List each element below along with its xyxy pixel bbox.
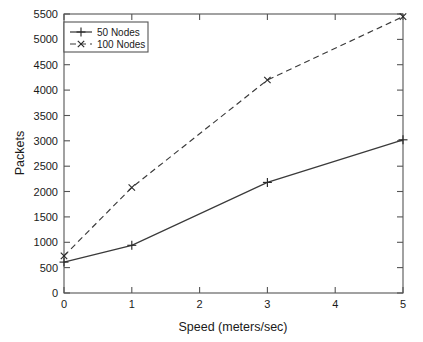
legend-item-label: 50 Nodes [97,27,140,38]
chart-legend[interactable]: 50 Nodes 100 Nodes [64,22,148,52]
legend-item-label: 100 Nodes [97,39,145,50]
y-tick-label: 2500 [34,160,58,172]
x-axis-ticks [64,14,403,293]
y-tick-label: 1000 [34,236,58,248]
y-tick-label: 4500 [34,59,58,71]
y-tick-label: 0 [52,287,58,299]
line-chart: 0 500 1000 1500 2000 2500 3000 3500 4000… [0,0,423,342]
y-tick-label: 3500 [34,110,58,122]
series-50-nodes-line [64,140,403,262]
y-tick-label: 1500 [34,211,58,223]
y-tick-label: 2000 [34,186,58,198]
x-axis-title: Speed (meters/sec) [178,320,287,334]
x-tick-label: 3 [264,298,270,310]
y-tick-label: 500 [40,262,58,274]
y-tick-label: 3000 [34,135,58,147]
plot-frame [64,14,403,293]
legend-item-50-nodes[interactable]: 50 Nodes [70,27,140,38]
x-tick-label: 4 [332,298,338,310]
y-tick-label: 5000 [34,33,58,45]
y-axis-tick-labels: 0 500 1000 1500 2000 2500 3000 3500 4000… [34,8,58,299]
x-tick-label: 0 [61,298,67,310]
series-50-nodes [60,135,408,266]
y-tick-label: 5500 [34,8,58,20]
y-tick-label: 4000 [34,84,58,96]
y-axis-ticks [64,14,403,293]
x-tick-label: 1 [129,298,135,310]
chart-figure: 0 500 1000 1500 2000 2500 3000 3500 4000… [0,0,423,342]
y-axis-title: Packets [13,131,27,175]
x-tick-label: 2 [197,298,203,310]
x-axis-tick-labels: 0 1 2 3 4 5 [61,298,406,310]
x-tick-label: 5 [400,298,406,310]
